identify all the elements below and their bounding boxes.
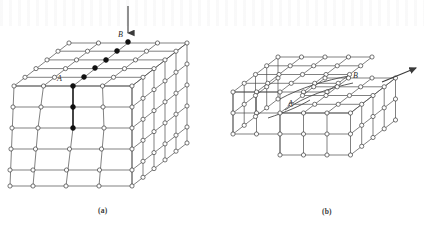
panel-b-slip-direction-arrow bbox=[382, 68, 416, 82]
caption-panel-b: (b) bbox=[322, 207, 332, 216]
caption-panel-a: (a) bbox=[98, 206, 107, 215]
panel-b-label-B: B bbox=[353, 71, 358, 80]
panel-a-label-A: A bbox=[56, 74, 62, 83]
panel-a-lattice: B A bbox=[8, 6, 189, 188]
panel-a-right-nodes bbox=[141, 62, 189, 179]
panel-a-top-face bbox=[14, 43, 187, 86]
panel-b-lattice: B A bbox=[231, 55, 416, 157]
panel-a-front-face bbox=[10, 86, 132, 186]
panel-b-label-A: A bbox=[287, 99, 293, 108]
figure-root: B A bbox=[0, 0, 424, 230]
panel-a-right-face bbox=[132, 43, 187, 186]
dislocation-figure-svg: B A bbox=[0, 0, 424, 230]
panel-a-label-B: B bbox=[118, 30, 123, 39]
